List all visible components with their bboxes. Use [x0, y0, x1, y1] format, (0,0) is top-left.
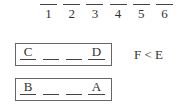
position-slot: 4: [110, 4, 127, 20]
position-slot: 6: [156, 4, 173, 20]
position-number: 3: [86, 7, 103, 20]
blank-line: [156, 4, 173, 5]
group-cell: [66, 81, 82, 95]
position-number: 4: [110, 7, 127, 20]
group-box-cd: C D: [15, 43, 112, 66]
group-cell: [43, 46, 59, 60]
group-cell: [43, 81, 59, 95]
position-slot: 2: [63, 4, 80, 20]
blank-line: [40, 4, 57, 5]
blank-line: [86, 4, 103, 5]
constraint-label: F < E: [134, 48, 163, 62]
group-cell: B: [20, 81, 36, 95]
position-slots: 1 2 3 4 5 6: [40, 4, 179, 20]
position-number: 1: [40, 7, 57, 20]
position-slot: 5: [133, 4, 150, 20]
position-number: 6: [156, 7, 173, 20]
position-number: 2: [63, 7, 80, 20]
group-cell: D: [88, 46, 104, 60]
position-slot: 1: [40, 4, 57, 20]
group-box-ba: B A: [15, 78, 112, 101]
group-cell: A: [88, 81, 104, 95]
blank-line: [63, 4, 80, 5]
blank-line: [110, 4, 127, 5]
position-number: 5: [133, 7, 150, 20]
blank-line: [133, 4, 150, 5]
group-cell: [66, 46, 82, 60]
group-cell: C: [20, 46, 36, 60]
position-slot: 3: [86, 4, 103, 20]
